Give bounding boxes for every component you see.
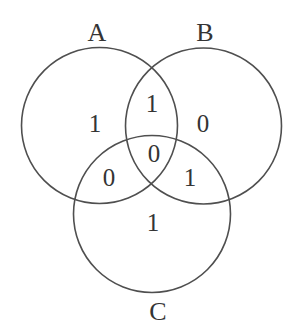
- set-a-label: A: [88, 18, 107, 47]
- venn-diagram-canvas: A B C 1 1 0 0 0 1 1: [0, 0, 301, 327]
- region-a-and-b-value: 1: [146, 90, 159, 117]
- set-b-label: B: [196, 18, 213, 47]
- region-a-and-b-and-c-value: 0: [148, 140, 161, 167]
- region-a-only-value: 1: [89, 110, 102, 137]
- set-c-label: C: [149, 297, 166, 326]
- region-b-only-value: 0: [197, 110, 210, 137]
- region-b-and-c-value: 1: [184, 164, 197, 191]
- venn-diagram: A B C 1 1 0 0 0 1 1: [0, 0, 301, 327]
- region-c-only-value: 1: [147, 209, 160, 236]
- region-a-and-c-value: 0: [103, 164, 116, 191]
